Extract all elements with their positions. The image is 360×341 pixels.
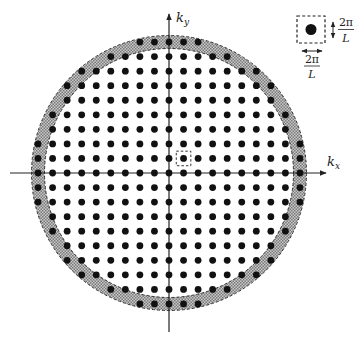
lattice-point bbox=[78, 82, 85, 89]
lattice-point bbox=[253, 97, 260, 104]
lattice-point bbox=[267, 111, 274, 118]
lattice-point bbox=[78, 126, 85, 133]
lattice-point bbox=[209, 228, 216, 235]
lattice-point bbox=[93, 242, 100, 249]
lattice-point bbox=[151, 199, 158, 206]
lattice-point bbox=[180, 39, 187, 46]
lattice-point bbox=[137, 184, 144, 191]
lattice-point bbox=[180, 301, 187, 308]
lattice-point bbox=[151, 257, 158, 264]
lattice-point bbox=[282, 126, 289, 133]
lattice-point bbox=[78, 68, 85, 75]
lattice-point bbox=[180, 53, 187, 60]
lattice-point bbox=[282, 184, 289, 191]
lattice-point bbox=[78, 242, 85, 249]
lattice-point bbox=[49, 199, 56, 206]
lattice-point bbox=[93, 257, 100, 264]
lattice-point bbox=[195, 170, 202, 177]
lattice-point bbox=[209, 111, 216, 118]
lattice-point bbox=[180, 126, 187, 133]
lattice-point bbox=[64, 82, 71, 89]
lattice-point bbox=[122, 228, 129, 235]
lattice-point bbox=[195, 141, 202, 148]
lattice-point bbox=[253, 242, 260, 249]
lattice-point bbox=[93, 170, 100, 177]
lattice-point bbox=[253, 126, 260, 133]
lattice-point bbox=[122, 199, 129, 206]
lattice-point bbox=[282, 228, 289, 235]
lattice-point bbox=[267, 257, 274, 264]
lattice-point bbox=[267, 228, 274, 235]
lattice-point bbox=[224, 184, 231, 191]
lattice-point bbox=[180, 68, 187, 75]
lattice-point bbox=[107, 199, 114, 206]
lattice-point bbox=[122, 155, 129, 162]
lattice-point bbox=[195, 68, 202, 75]
lattice-point bbox=[49, 126, 56, 133]
lattice-point bbox=[137, 53, 144, 60]
lattice-point bbox=[93, 228, 100, 235]
lattice-point bbox=[107, 53, 114, 60]
lattice-point bbox=[78, 271, 85, 278]
lattice-point bbox=[180, 199, 187, 206]
lattice-point bbox=[151, 68, 158, 75]
lattice-point bbox=[64, 97, 71, 104]
lattice-point bbox=[107, 68, 114, 75]
lattice-point bbox=[35, 199, 42, 206]
lattice-point bbox=[93, 97, 100, 104]
lattice-point bbox=[137, 170, 144, 177]
lattice-point bbox=[224, 141, 231, 148]
lattice-point bbox=[122, 68, 129, 75]
lattice-point bbox=[93, 111, 100, 118]
lattice-point bbox=[253, 213, 260, 220]
lattice-point bbox=[238, 155, 245, 162]
lattice-point bbox=[180, 242, 187, 249]
lattice-point bbox=[209, 257, 216, 264]
lattice-point bbox=[253, 228, 260, 235]
lattice-point bbox=[267, 170, 274, 177]
lattice-point bbox=[253, 141, 260, 148]
lattice-point bbox=[195, 82, 202, 89]
lattice-point bbox=[151, 228, 158, 235]
lattice-point bbox=[282, 111, 289, 118]
lattice-point bbox=[224, 228, 231, 235]
lattice-point bbox=[238, 184, 245, 191]
lattice-point bbox=[224, 286, 231, 293]
lattice-point bbox=[238, 213, 245, 220]
lattice-point bbox=[78, 97, 85, 104]
lattice-point bbox=[122, 53, 129, 60]
lattice-point bbox=[224, 68, 231, 75]
width-label-numerator: 2π bbox=[305, 53, 319, 66]
lattice-point bbox=[166, 271, 173, 278]
lattice-point bbox=[180, 170, 187, 177]
lattice-point bbox=[137, 199, 144, 206]
lattice-point bbox=[253, 271, 260, 278]
lattice-point bbox=[209, 184, 216, 191]
lattice-point bbox=[107, 184, 114, 191]
lattice-point bbox=[137, 228, 144, 235]
lattice-point bbox=[224, 97, 231, 104]
lattice-point bbox=[137, 97, 144, 104]
lattice-point bbox=[166, 242, 173, 249]
lattice-point bbox=[209, 126, 216, 133]
lattice-point bbox=[166, 155, 173, 162]
lattice-point bbox=[49, 228, 56, 235]
lattice-point bbox=[137, 286, 144, 293]
lattice-point bbox=[238, 257, 245, 264]
lattice-point bbox=[238, 68, 245, 75]
lattice-point bbox=[224, 82, 231, 89]
lattice-point bbox=[224, 111, 231, 118]
lattice-point bbox=[151, 53, 158, 60]
lattice-point bbox=[166, 82, 173, 89]
lattice-point bbox=[209, 271, 216, 278]
lattice-point bbox=[180, 155, 187, 162]
lattice-point bbox=[122, 184, 129, 191]
lattice-point bbox=[282, 199, 289, 206]
lattice-point bbox=[195, 213, 202, 220]
lattice-point bbox=[122, 82, 129, 89]
lattice-point bbox=[195, 228, 202, 235]
lattice-point bbox=[122, 242, 129, 249]
lattice-point bbox=[151, 301, 158, 308]
lattice-point bbox=[180, 257, 187, 264]
lattice-point bbox=[122, 271, 129, 278]
